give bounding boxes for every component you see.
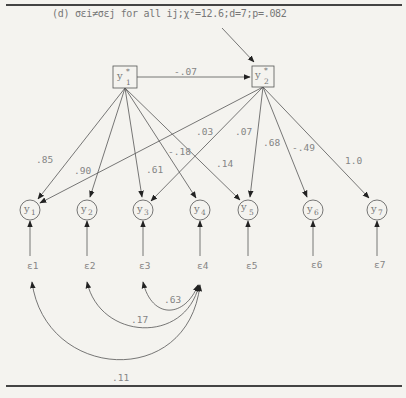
svg-text:y: y	[116, 70, 123, 81]
path-y2star-y5	[250, 87, 263, 197]
svg-text:1: 1	[31, 208, 36, 217]
bottom-rule	[6, 385, 402, 387]
path-y2star-y1	[40, 87, 263, 203]
label-y1-loading-y4: -.18	[168, 146, 191, 157]
label-y1-loading-y2: .90	[74, 165, 91, 176]
latent-node-y2star: y * 2	[252, 66, 274, 87]
path-y1star-y1	[38, 88, 125, 199]
observed-node-y2	[77, 200, 97, 220]
error-label-e1: ε1	[27, 260, 39, 271]
label-y2-loading-y1: .03	[196, 126, 213, 137]
label-y2-loading-y3: .07	[235, 126, 252, 137]
error-label-e4: ε4	[197, 260, 209, 271]
svg-text:y: y	[136, 203, 143, 214]
label-y2-loading-y5: .68	[263, 137, 280, 148]
label-y1-loading-y5: .14	[216, 158, 233, 169]
latent-node-y1star: y * 1	[113, 66, 137, 88]
label-cov-e2-e4: .17	[131, 314, 148, 325]
label-y1-loading-y3: .61	[146, 164, 163, 175]
label-y2-loading-y6: -.49	[292, 142, 315, 153]
svg-text:4: 4	[201, 208, 206, 217]
svg-text:y: y	[254, 69, 261, 80]
svg-text:*: *	[264, 66, 268, 75]
svg-text:2: 2	[88, 208, 93, 217]
label-cov-e3-e4: .63	[164, 294, 181, 305]
svg-text:2: 2	[264, 77, 269, 86]
error-label-e3: ε3	[139, 260, 150, 271]
label-cov-e1-e4: .11	[112, 372, 129, 383]
caption-pointer-arrow	[222, 28, 254, 62]
svg-text:5: 5	[249, 208, 254, 217]
error-label-e5: ε5	[246, 260, 257, 271]
error-label-e6: ε6	[311, 259, 323, 270]
path-y1star-y2	[90, 88, 125, 197]
label-y1star-y2star: -.07	[174, 66, 197, 77]
path-y1star-y5	[125, 88, 240, 200]
svg-text:y: y	[23, 203, 30, 214]
error-label-e2: ε2	[84, 260, 95, 271]
svg-text:y: y	[240, 201, 247, 212]
svg-text:*: *	[126, 67, 130, 76]
svg-text:y: y	[370, 203, 377, 214]
path-y1star-y3	[125, 88, 142, 197]
svg-text:y: y	[80, 203, 87, 214]
svg-text:y: y	[306, 203, 313, 214]
svg-text:3: 3	[144, 208, 149, 217]
svg-text:y: y	[193, 203, 200, 214]
observed-node-y7	[367, 200, 387, 220]
observed-node-y3	[133, 200, 153, 220]
label-y2-loading-y7: 1.0	[345, 155, 362, 166]
observed-node-y6	[303, 200, 323, 220]
path-y2star-y3	[151, 87, 263, 201]
svg-text:7: 7	[378, 208, 383, 217]
path-y1star-y4	[125, 88, 196, 198]
observed-node-y1	[20, 200, 40, 220]
svg-text:1: 1	[126, 78, 131, 87]
label-y1-loading-y1: .85	[36, 154, 53, 165]
observed-node-y4	[190, 200, 210, 220]
error-label-e7: ε7	[374, 259, 385, 270]
svg-text:6: 6	[314, 208, 319, 217]
path-diagram: y * 1 y * 2 y1 y2 y3 y4 y5 y6 y7 ε1 ε2 ε…	[0, 0, 406, 398]
